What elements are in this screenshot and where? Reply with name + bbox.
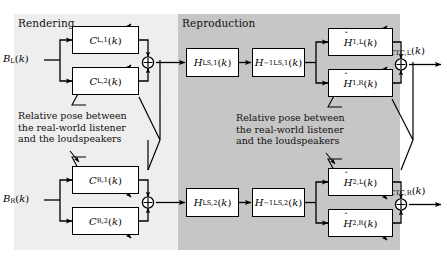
annotation-line: the real-world listener xyxy=(236,124,345,136)
block-h-2-r: ̌H2,R(k) xyxy=(328,209,393,237)
wire-cross-repro-down xyxy=(401,140,413,170)
sum-right-icon xyxy=(142,197,153,208)
block-c-l-1: CL,1(k) xyxy=(72,26,139,54)
annotation-line: and the loudspeakers xyxy=(236,135,345,147)
sum-left-icon xyxy=(142,57,153,68)
block-c-r-2: CR,2(k) xyxy=(72,207,139,235)
block-h-ls-2: HLS,2(k) xyxy=(186,188,239,217)
input-label-bl: BL(k) xyxy=(3,53,29,65)
block-h-2-l: ̌H2,L(k) xyxy=(328,168,393,196)
sum-out-left-icon xyxy=(395,59,406,70)
annotation-line: Relative pose between xyxy=(18,110,127,122)
block-h-ls-1-inv: H−1LS,1(k) xyxy=(252,48,305,77)
annotation-line: Relative pose between xyxy=(236,112,345,124)
block-c-l-2: CL,2(k) xyxy=(72,67,139,95)
sum-out-right-icon xyxy=(395,199,406,210)
annotation-reproduction-pose: Relative pose between the real-world lis… xyxy=(236,112,345,147)
block-h-ls-1: HLS,1(k) xyxy=(186,48,239,77)
annotation-line: and the loudspeakers xyxy=(18,133,127,145)
block-diagram: Rendering Reproduction BL(k) BR(k) ECTC,… xyxy=(0,0,447,265)
input-label-br: BR(k) xyxy=(3,193,29,205)
panel-label-rendering: Rendering xyxy=(18,17,75,29)
annotation-line: the real-world listener xyxy=(18,122,127,134)
annotation-rendering-pose: Relative pose between the real-world lis… xyxy=(18,110,127,145)
block-c-r-1: CR,1(k) xyxy=(72,166,139,194)
panel-label-reproduction: Reproduction xyxy=(182,17,255,29)
block-h-ls-2-inv: H−1LS,2(k) xyxy=(252,188,305,217)
block-h-1-l: ̌H1,L(k) xyxy=(328,28,393,56)
block-h-1-r: ̌H1,R(k) xyxy=(328,69,393,97)
